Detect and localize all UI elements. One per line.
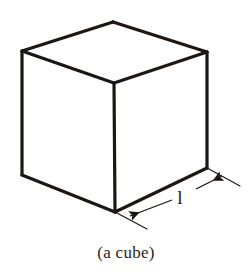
dimension-arrow-right [196, 176, 222, 189]
cube-drawing [0, 0, 252, 275]
cube-figure: l (a cube) [0, 0, 252, 275]
extension-line-start [115, 212, 147, 229]
figure-caption: (a cube) [0, 243, 252, 263]
extension-line-end [207, 168, 240, 186]
dimension-label-l: l [171, 188, 189, 207]
edge-vertical-center [114, 83, 115, 212]
